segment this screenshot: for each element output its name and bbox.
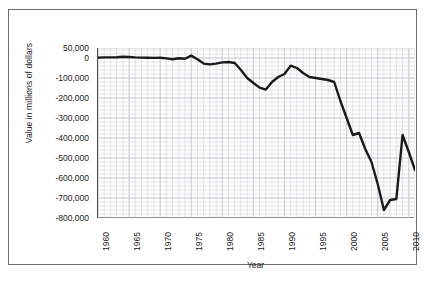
y-axis-tick-label: -200,000 — [55, 93, 89, 103]
y-axis-tick-label: -400,000 — [55, 133, 89, 143]
x-axis-tick-label: 1960 — [101, 232, 111, 251]
chart-frame: Value in millions of dollars 50,0000-100… — [8, 9, 417, 265]
x-axis-tick-labels: 1960196519701975198019851990199520002005… — [97, 221, 414, 261]
minor-gridlines — [98, 48, 415, 218]
chart-figure: Value in millions of dollars 50,0000-100… — [0, 0, 433, 283]
x-axis-tick-label: 1965 — [132, 232, 142, 251]
x-axis-tick-label: 1985 — [256, 232, 266, 251]
x-axis-tick-label: 2000 — [349, 232, 359, 251]
x-axis-tick-label: 1980 — [225, 232, 235, 251]
y-axis-tick-label: -100,000 — [55, 73, 89, 83]
x-axis-title: Year — [97, 260, 414, 270]
plot-area — [97, 48, 414, 218]
y-axis-tick-label: 0 — [84, 53, 89, 63]
data-series-line — [98, 56, 415, 210]
x-axis-tick-label: 2005 — [380, 232, 390, 251]
x-axis-tick-label: 1975 — [194, 232, 204, 251]
y-axis-tick-labels: 50,0000-100,000-200,000-300,000-400,000-… — [33, 40, 89, 224]
x-axis-tick-label: 1995 — [318, 232, 328, 251]
x-axis-tick-label: 1990 — [287, 232, 297, 251]
major-gridlines — [98, 48, 415, 218]
y-axis-tick-label: 50,000 — [63, 43, 89, 53]
y-axis-tick-label: -700,000 — [55, 193, 89, 203]
y-axis-tick-label: -500,000 — [55, 153, 89, 163]
y-axis-tick-label: -600,000 — [55, 173, 89, 183]
x-axis-tick-label: 2010 — [411, 232, 421, 251]
x-axis-tick-label: 1970 — [163, 232, 173, 251]
chart-line-plot — [98, 48, 415, 218]
y-axis-tick-label: -800,000 — [55, 213, 89, 223]
y-axis-tick-label: -300,000 — [55, 113, 89, 123]
